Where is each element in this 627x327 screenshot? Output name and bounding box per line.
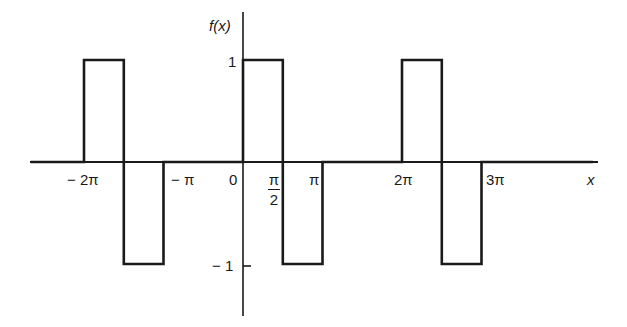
- x-tick-label-neg-pi: − π: [171, 172, 194, 187]
- half-pi-denominator: 2: [268, 190, 280, 207]
- x-tick-label-zero: 0: [229, 172, 237, 187]
- x-tick-label-half-pi: π 2: [268, 172, 280, 207]
- x-tick-label-neg-2pi: − 2π: [67, 172, 99, 187]
- y-axis-label: f(x): [209, 18, 231, 33]
- x-tick-label-3pi: 3π: [486, 172, 505, 187]
- half-pi-numerator: π: [268, 172, 280, 190]
- chart-canvas: [0, 0, 627, 327]
- x-tick-label-pi: π: [309, 172, 319, 187]
- y-tick-label-one: 1: [228, 54, 236, 69]
- x-axis-label: x: [587, 172, 595, 187]
- x-tick-label-2pi: 2π: [394, 172, 413, 187]
- y-tick-label-neg-one: − 1: [212, 258, 233, 273]
